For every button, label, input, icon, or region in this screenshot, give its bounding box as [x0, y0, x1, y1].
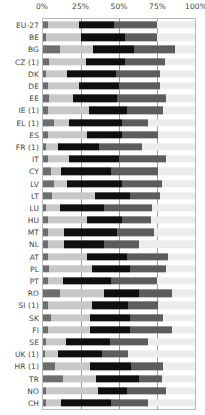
- stacked-bar: [43, 375, 195, 382]
- bar-segment-1: [43, 46, 60, 53]
- bar-segment-3: [81, 34, 125, 41]
- bar-row: CH: [43, 397, 195, 409]
- category-label: ES: [29, 130, 39, 139]
- bar-segment-5: [172, 290, 195, 297]
- bar-row: IE (1): [43, 104, 195, 116]
- bar-row: BG: [43, 43, 195, 55]
- category-label: LU: [30, 203, 40, 212]
- bar-segment-4: [111, 277, 157, 284]
- bar-segment-2: [48, 156, 69, 163]
- bar-segment-5: [158, 168, 194, 175]
- bar-segment-4: [114, 21, 157, 28]
- bar-segment-3: [58, 351, 102, 358]
- stacked-bar: [43, 351, 195, 358]
- stacked-bar: [43, 204, 195, 211]
- stacked-bar: [43, 95, 195, 102]
- bar-rows: EU-27BEBGCZ (1)DKDEEEIE (1)EL (1)ESFR (1…: [43, 19, 195, 409]
- category-label: MT: [28, 228, 39, 237]
- bar-segment-1: [43, 314, 51, 321]
- bar-segment-2: [48, 131, 88, 138]
- bar-row: LV: [43, 177, 195, 189]
- bar-segment-4: [130, 192, 160, 199]
- bar-segment-2: [48, 229, 65, 236]
- stacked-bar: [43, 192, 195, 199]
- stacked-bar: [43, 168, 195, 175]
- bar-segment-2: [51, 168, 62, 175]
- bar-segment-2: [48, 326, 91, 333]
- bar-row: PT: [43, 275, 195, 287]
- bar-segment-4: [104, 241, 139, 248]
- stacked-bar: [43, 34, 195, 41]
- bar-segment-1: [43, 168, 51, 175]
- stacked-bar: [43, 70, 195, 77]
- bar-segment-3: [63, 277, 112, 284]
- bar-segment-3: [61, 168, 111, 175]
- stacked-bar: [43, 277, 195, 284]
- bar-segment-5: [160, 192, 195, 199]
- stacked-bar: [43, 253, 195, 260]
- bar-segment-3: [92, 265, 130, 272]
- stacked-bar: [43, 326, 195, 333]
- bar-segment-5: [166, 95, 195, 102]
- bar-segment-4: [102, 351, 128, 358]
- bar-segment-5: [158, 302, 194, 309]
- stacked-bar: [43, 265, 195, 272]
- bar-segment-3: [79, 21, 114, 28]
- bar-row: SE: [43, 336, 195, 348]
- bar-segment-2: [52, 192, 95, 199]
- bar-row: HU: [43, 214, 195, 226]
- bar-row: LT: [43, 190, 195, 202]
- bar-segment-2: [46, 387, 98, 394]
- stacked-bar: [43, 156, 195, 163]
- stacked-bar: [43, 143, 195, 150]
- bar-segment-5: [168, 253, 195, 260]
- bar-segment-4: [104, 204, 153, 211]
- bar-segment-2: [48, 302, 92, 309]
- bar-segment-4: [122, 131, 158, 138]
- bar-row: ES: [43, 129, 195, 141]
- bar-segment-4: [139, 290, 172, 297]
- bar-segment-4: [122, 180, 162, 187]
- bar-row: FI: [43, 324, 195, 336]
- bar-segment-2: [60, 46, 93, 53]
- bar-segment-3: [67, 180, 122, 187]
- plot-area: EU-27BEBGCZ (1)DKDEEEIE (1)EL (1)ESFR (1…: [42, 18, 196, 410]
- bar-segment-2: [55, 363, 90, 370]
- bar-segment-2: [46, 143, 58, 150]
- bar-segment-5: [148, 399, 195, 406]
- bar-segment-2: [60, 290, 104, 297]
- category-label: CY: [29, 167, 39, 176]
- bar-segment-5: [154, 229, 195, 236]
- bar-row: DE: [43, 80, 195, 92]
- category-label: HU: [28, 216, 39, 225]
- bar-segment-3: [79, 82, 119, 89]
- bar-segment-3: [95, 192, 130, 199]
- bar-row: CZ (1): [43, 56, 195, 68]
- stacked-bar: [43, 180, 195, 187]
- bar-segment-2: [54, 180, 68, 187]
- bar-segment-3: [90, 363, 131, 370]
- bar-segment-3: [64, 241, 104, 248]
- bar-row: TR: [43, 372, 195, 384]
- bar-segment-4: [111, 399, 147, 406]
- bar-segment-5: [162, 375, 195, 382]
- category-label: EL (1): [16, 118, 39, 127]
- bar-row: NL: [43, 238, 195, 250]
- bar-segment-5: [157, 34, 195, 41]
- bar-segment-5: [157, 21, 195, 28]
- bar-segment-4: [117, 95, 166, 102]
- bar-segment-4: [117, 229, 153, 236]
- bar-segment-4: [127, 387, 167, 394]
- axis-tick-label: 75%: [149, 2, 166, 11]
- stacked-bar: [43, 290, 195, 297]
- category-label: UK (1): [15, 350, 39, 359]
- bar-segment-4: [128, 302, 158, 309]
- axis-tick-label: 0%: [36, 2, 48, 11]
- category-label: BG: [28, 45, 39, 54]
- bar-segment-5: [163, 363, 195, 370]
- stacked-bar-chart: 0%25%50%75%100% EU-27BEBGCZ (1)DKDEEEIE …: [0, 0, 205, 415]
- bar-row: FR (1): [43, 141, 195, 153]
- bar-segment-2: [46, 338, 66, 345]
- bar-segment-4: [125, 34, 157, 41]
- bar-segment-2: [45, 351, 59, 358]
